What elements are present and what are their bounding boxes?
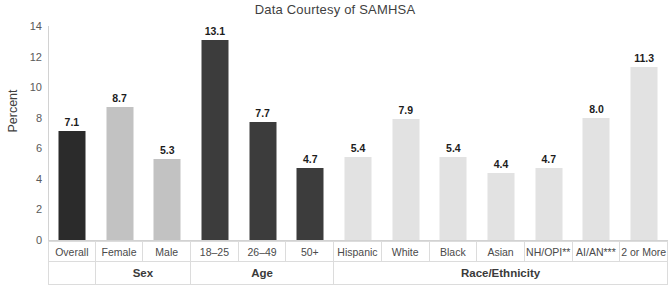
bar-value-label: 13.1 (205, 25, 225, 37)
bar[interactable] (201, 40, 228, 240)
bar-slot: 5.4 (334, 26, 382, 240)
bar-slot: 4.7 (286, 26, 334, 240)
group-label: Sex (96, 262, 191, 285)
y-axis-label: Percent (6, 71, 20, 151)
bar-value-label: 7.7 (255, 107, 270, 119)
y-tick-label: 8 (36, 112, 42, 124)
y-tick-label: 10 (30, 81, 42, 93)
bar-value-label: 4.7 (303, 153, 318, 165)
bar-slot: 8.0 (573, 26, 621, 240)
category-label: AI/AN*** (573, 241, 621, 262)
group-label-empty (48, 262, 96, 285)
category-table: OverallFemaleMale18–2526–4950+HispanicWh… (48, 241, 668, 286)
chart-title: Data Courtesy of SAMHSA (0, 2, 670, 17)
bar-chart: Data Courtesy of SAMHSA Percent 02468101… (0, 0, 670, 296)
bar-slot: 7.1 (48, 26, 96, 240)
category-label: Asian (477, 241, 525, 262)
bar-slot: 7.7 (239, 26, 287, 240)
group-label: Age (191, 262, 334, 285)
bar[interactable] (58, 131, 85, 240)
y-tick-label: 12 (30, 51, 42, 63)
category-label: Male (143, 241, 191, 262)
bar-slot: 4.7 (525, 26, 573, 240)
category-label: Black (430, 241, 478, 262)
bar[interactable] (249, 122, 276, 240)
y-tick-label: 0 (36, 234, 42, 246)
bar-value-label: 7.9 (398, 104, 413, 116)
bar-slot: 13.1 (191, 26, 239, 240)
bar-value-label: 4.4 (494, 158, 509, 170)
y-tick-label: 6 (36, 142, 42, 154)
bar[interactable] (154, 159, 181, 240)
category-label: 2 or More (620, 241, 668, 262)
y-tick-label: 14 (30, 20, 42, 32)
bar[interactable] (631, 67, 658, 240)
bar[interactable] (344, 157, 371, 240)
bar[interactable] (583, 118, 610, 240)
bar-slot: 11.3 (620, 26, 668, 240)
category-label: Hispanic (334, 241, 382, 262)
bar-value-label: 5.4 (446, 142, 461, 154)
category-label: NH/OPI** (525, 241, 573, 262)
bar[interactable] (297, 168, 324, 240)
category-label: 18–25 (191, 241, 239, 262)
bar-value-label: 8.0 (589, 103, 604, 115)
group-label: Race/Ethnicity (334, 262, 668, 285)
bar-value-label: 5.4 (351, 142, 366, 154)
bar-slot: 4.4 (477, 26, 525, 240)
bar[interactable] (440, 157, 467, 240)
category-label: Female (96, 241, 144, 262)
bar-slot: 7.9 (382, 26, 430, 240)
category-label: 50+ (286, 241, 334, 262)
category-label: 26–49 (239, 241, 287, 262)
bar-slot: 5.3 (143, 26, 191, 240)
plot-area: 02468101214 7.18.75.313.17.74.75.47.95.4… (48, 26, 668, 240)
bar[interactable] (488, 173, 515, 240)
y-tick-label: 2 (36, 203, 42, 215)
bar[interactable] (392, 119, 419, 240)
category-label: White (382, 241, 430, 262)
bar-value-label: 4.7 (541, 153, 556, 165)
bar-slot: 8.7 (96, 26, 144, 240)
category-label: Overall (48, 241, 96, 262)
bar-value-label: 11.3 (634, 52, 654, 64)
bar-slot: 5.4 (430, 26, 478, 240)
bar-value-label: 7.1 (65, 116, 80, 128)
bar-value-label: 8.7 (112, 92, 127, 104)
bar[interactable] (535, 168, 562, 240)
y-tick-label: 4 (36, 173, 42, 185)
bar[interactable] (106, 107, 133, 240)
bar-value-label: 5.3 (160, 144, 175, 156)
